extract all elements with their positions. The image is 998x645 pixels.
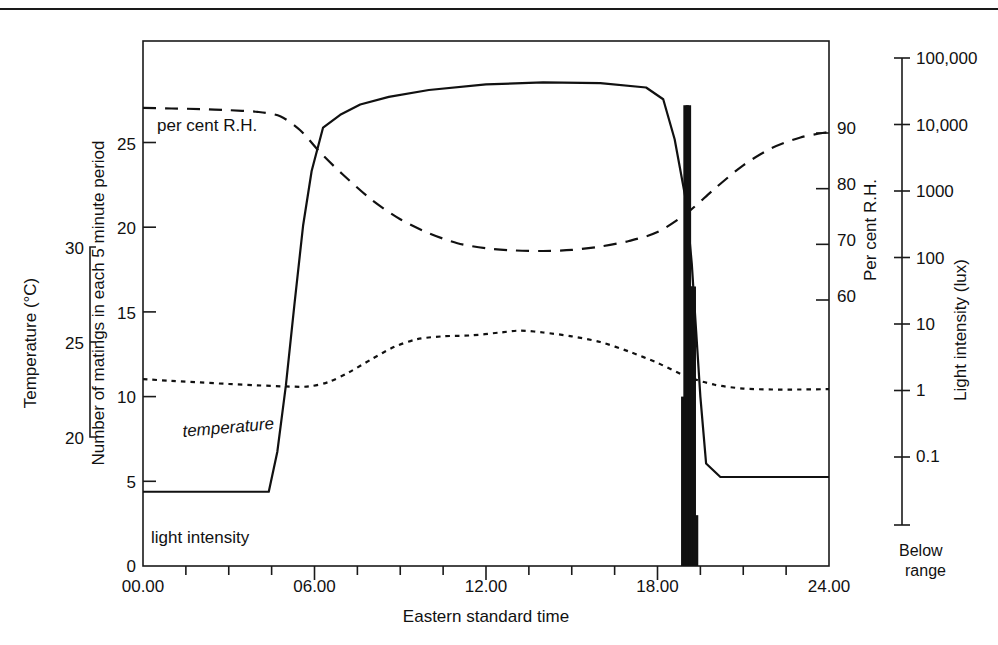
matings-axis-ticks <box>143 143 156 482</box>
light-below-range-label-line1: Below <box>899 542 943 559</box>
humidity-axis-title: Per cent R.H. <box>861 179 880 281</box>
matings-axis-title: Number of matings in each 5 minute perio… <box>89 140 108 465</box>
light-tick-label-100000: 100,000 <box>916 49 977 68</box>
temperature-axis-title: Temperature (°C) <box>21 278 40 409</box>
humidity-tick-label-90: 90 <box>837 119 856 138</box>
series-label-temperature: temperature <box>182 414 275 441</box>
mating-bar <box>693 515 699 566</box>
temperature-tick-label-30: 30 <box>65 239 84 258</box>
humidity-tick-label-60: 60 <box>837 287 856 306</box>
light-below-range-label-line2: range <box>905 562 946 579</box>
light-tick-label-100: 100 <box>916 249 944 268</box>
light-tick-label-0.1: 0.1 <box>916 447 940 466</box>
x-tick-label-1: 06.00 <box>293 577 336 596</box>
series-label-light-intensity: light intensity <box>151 528 250 547</box>
humidity-tick-label-70: 70 <box>837 231 856 250</box>
humidity-tick-label-80: 80 <box>837 175 856 194</box>
matings-tick-label-20: 20 <box>117 219 136 238</box>
x-tick-label-4: 24.00 <box>808 577 851 596</box>
temperature-tick-label-25: 25 <box>65 334 84 353</box>
light-axis-title: Light intensity (lux) <box>951 259 970 401</box>
humidity-axis-ticks <box>816 133 829 300</box>
light-tick-label-1: 1 <box>916 381 925 400</box>
matings-tick-label-15: 15 <box>117 304 136 323</box>
temperature-tick-label-20: 20 <box>65 429 84 448</box>
x-tick-label-0: 00.00 <box>122 577 165 596</box>
light-tick-label-1000: 1000 <box>916 182 954 201</box>
x-axis-title: Eastern standard time <box>403 607 569 626</box>
light-tick-label-10: 10 <box>916 315 935 334</box>
figure-root: 00.00 06.00 12.00 18.00 24.00 Eastern st… <box>0 0 998 645</box>
series-label-humidity: per cent R.H. <box>157 116 257 135</box>
light-tick-label-10000: 10,000 <box>916 116 968 135</box>
matings-tick-label-5: 5 <box>127 473 136 492</box>
matings-tick-label-10: 10 <box>117 388 136 407</box>
matings-tick-label-25: 25 <box>117 135 136 154</box>
mating-bars <box>681 105 698 566</box>
x-tick-label-3: 18.00 <box>636 577 679 596</box>
curve-temperature <box>143 331 829 390</box>
matings-tick-label-0: 0 <box>127 557 136 576</box>
chart-svg: 00.00 06.00 12.00 18.00 24.00 Eastern st… <box>0 0 998 645</box>
x-tick-label-2: 12.00 <box>465 577 508 596</box>
